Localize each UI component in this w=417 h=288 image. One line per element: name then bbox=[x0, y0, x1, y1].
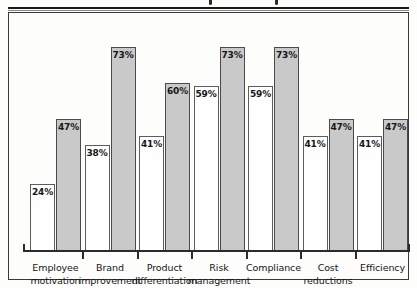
bar-group: 24%47% bbox=[30, 27, 81, 251]
x-axis-left-cap bbox=[23, 244, 25, 252]
bar: 24% bbox=[30, 184, 55, 251]
bar-value-label: 73% bbox=[275, 50, 298, 61]
bar-value-label: 47% bbox=[57, 122, 80, 133]
bar-value-label: 59% bbox=[249, 89, 272, 100]
bar-value-label: 60% bbox=[166, 86, 189, 97]
category-label-line1: Efficiency bbox=[344, 261, 417, 274]
bar-group: 38%73% bbox=[85, 27, 136, 251]
bar: 73% bbox=[220, 47, 245, 251]
bar-value-label: 59% bbox=[195, 89, 218, 100]
bar-value-label: 38% bbox=[86, 148, 109, 159]
bar-value-label: 24% bbox=[31, 187, 54, 198]
bar: 41% bbox=[357, 136, 382, 251]
cropped-title-descender bbox=[275, 0, 278, 5]
bar: 47% bbox=[383, 119, 408, 251]
bar: 38% bbox=[85, 145, 110, 251]
bar: 60% bbox=[165, 83, 190, 251]
x-axis-right-cap bbox=[408, 244, 410, 252]
bar: 73% bbox=[274, 47, 299, 251]
x-axis-tick bbox=[300, 252, 302, 259]
scanned-page: 24%47%38%73%41%60%59%73%59%73%41%47%41%4… bbox=[0, 0, 417, 288]
bar: 47% bbox=[329, 119, 354, 251]
category-label: Efficiency bbox=[344, 261, 417, 274]
bar: 41% bbox=[303, 136, 328, 251]
bar: 47% bbox=[56, 119, 81, 251]
bar: 41% bbox=[139, 136, 164, 251]
x-axis-tick bbox=[82, 252, 84, 259]
cropped-title-descender bbox=[209, 0, 212, 5]
x-axis-tick bbox=[191, 252, 193, 259]
x-axis-tick bbox=[355, 252, 357, 259]
bar-group: 59%73% bbox=[248, 27, 299, 251]
bar: 73% bbox=[111, 47, 136, 251]
category-label-line2: reductions bbox=[290, 274, 367, 287]
chart-frame: 24%47%38%73%41%60%59%73%59%73%41%47%41%4… bbox=[8, 12, 409, 280]
bar-value-label: 73% bbox=[221, 50, 244, 61]
x-axis-tick bbox=[137, 252, 139, 259]
bar-group: 41%60% bbox=[139, 27, 190, 251]
cropped-title-rule-secondary bbox=[8, 10, 409, 11]
bar-value-label: 47% bbox=[330, 122, 353, 133]
bar: 59% bbox=[248, 86, 273, 251]
x-axis-tick bbox=[246, 252, 248, 259]
bar-value-label: 47% bbox=[384, 122, 407, 133]
cropped-title-rule bbox=[8, 7, 409, 9]
category-labels: EmployeemotivationBrandimprovementProduc… bbox=[23, 261, 412, 288]
bar-group: 41%47% bbox=[357, 27, 408, 251]
bar-group: 59%73% bbox=[194, 27, 245, 251]
category-label-line2: management bbox=[181, 274, 258, 287]
plot-area: 24%47%38%73%41%60%59%73%59%73%41%47%41%4… bbox=[23, 27, 412, 251]
bar: 59% bbox=[194, 86, 219, 251]
bar-value-label: 73% bbox=[112, 50, 135, 61]
bar-value-label: 41% bbox=[140, 139, 163, 150]
bar-value-label: 41% bbox=[304, 139, 327, 150]
bar-group: 41%47% bbox=[303, 27, 354, 251]
bar-value-label: 41% bbox=[358, 139, 381, 150]
